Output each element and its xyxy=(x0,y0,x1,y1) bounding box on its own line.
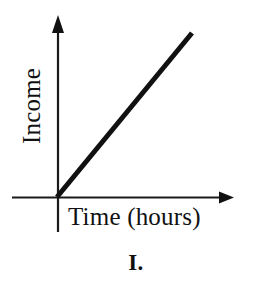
figure-container: Income Time (hours) I. xyxy=(0,0,272,285)
x-axis-label: Time (hours) xyxy=(68,203,201,231)
arrow-up-icon xyxy=(52,15,64,33)
figure-caption: I. xyxy=(0,250,272,276)
income-trend-line xyxy=(57,33,192,197)
arrow-right-icon xyxy=(219,192,234,204)
y-axis-label: Income xyxy=(19,60,45,152)
